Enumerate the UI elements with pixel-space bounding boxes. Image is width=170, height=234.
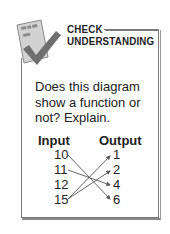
mapping-arrows [0,0,170,234]
arrow-15-to-2 [68,171,110,199]
